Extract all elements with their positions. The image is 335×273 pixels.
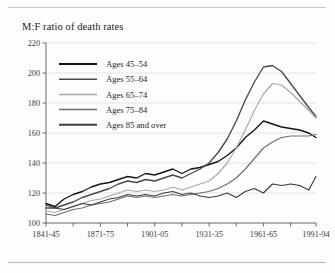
legend-label-1: Ages 45–54 [106, 59, 148, 69]
chart-plot-area: 1001201401601802002201841-451871-751901-… [0, 0, 335, 273]
legend-label-2: Ages 55–64 [106, 74, 148, 84]
x-axis-tick-label: 1841-45 [32, 230, 59, 239]
x-axis-tick-label: 1871-75 [87, 230, 114, 239]
y-axis-tick-label: 160 [28, 129, 40, 138]
y-axis-tick-label: 140 [28, 159, 40, 168]
x-axis-tick-label: 1991-94 [302, 230, 329, 239]
y-axis-tick-label: 220 [28, 39, 40, 48]
x-axis-tick-label: 1961-65 [250, 230, 277, 239]
x-axis-tick-label: 1931-35 [195, 230, 222, 239]
line-chart: 1001201401601802002201841-451871-751901-… [0, 0, 335, 273]
legend-label-3: Ages 65–74 [106, 90, 148, 100]
figure-container: M:F ratio of death rates 100120140160180… [0, 0, 335, 273]
series-line-4 [46, 135, 316, 216]
legend-label-4: Ages 75–84 [106, 105, 148, 115]
y-axis-tick-label: 120 [28, 189, 40, 198]
x-axis-tick-label: 1901-05 [141, 230, 168, 239]
legend-label-5: Ages 85 and over [106, 120, 167, 130]
series-line-2 [46, 66, 316, 209]
y-axis-tick-label: 200 [28, 69, 40, 78]
y-axis-tick-label: 100 [28, 219, 40, 228]
y-axis-tick-label: 180 [28, 99, 40, 108]
